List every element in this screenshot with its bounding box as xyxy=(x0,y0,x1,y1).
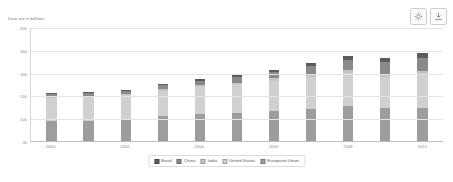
x-axis: 200020022004200620082010 xyxy=(30,144,443,152)
chart-widget: Data are in billions 50k40k30k20k10k0k 2… xyxy=(0,0,453,182)
bar-segment[interactable] xyxy=(83,121,93,141)
x-axis-tick-label: 2004 xyxy=(194,144,204,152)
bar-2008[interactable] xyxy=(343,56,353,141)
y-axis-tick-label: 0k xyxy=(23,140,27,145)
y-axis-tick-label: 40k xyxy=(20,48,27,53)
x-axis-tick-label: 2008 xyxy=(343,144,353,152)
legend-label: Brazil xyxy=(161,158,172,164)
plot-canvas xyxy=(30,28,443,142)
legend-label: European Union xyxy=(267,158,299,164)
x-axis-tick-label xyxy=(306,144,316,152)
gridline xyxy=(31,51,443,52)
settings-icon[interactable] xyxy=(410,8,427,25)
x-axis-tick-label xyxy=(380,144,390,152)
bar-segment[interactable] xyxy=(343,60,353,70)
legend-item-european-union[interactable]: European Union xyxy=(260,158,299,164)
x-axis-tick-label: 2006 xyxy=(268,144,278,152)
download-icon[interactable] xyxy=(430,8,447,25)
x-axis-tick-label xyxy=(83,144,93,152)
chart-legend: BrazilChinaIndiaUnited StatesEuropean Un… xyxy=(148,155,305,167)
legend-swatch xyxy=(200,159,205,164)
bar-segment[interactable] xyxy=(232,84,242,113)
bar-segment[interactable] xyxy=(380,108,390,141)
x-axis-tick-label xyxy=(157,144,167,152)
y-axis-tick-label: 30k xyxy=(20,71,27,76)
bar-segment[interactable] xyxy=(380,77,390,109)
legend-swatch xyxy=(177,159,182,164)
y-axis-tick-label: 50k xyxy=(20,26,27,31)
chart-toolbar xyxy=(410,8,447,25)
x-axis-tick-label: 2002 xyxy=(120,144,130,152)
legend-swatch xyxy=(260,159,265,164)
bar-segment[interactable] xyxy=(195,87,205,114)
gridline xyxy=(31,74,443,75)
bar-2009[interactable] xyxy=(380,58,390,141)
y-axis-tick-label: 10k xyxy=(20,117,27,122)
x-axis-tick-label xyxy=(231,144,241,152)
bar-segment[interactable] xyxy=(306,77,316,108)
bar-segment[interactable] xyxy=(417,108,427,141)
bar-2005[interactable] xyxy=(232,75,242,141)
bar-2007[interactable] xyxy=(306,63,316,141)
bar-segment[interactable] xyxy=(121,95,131,119)
bar-segment[interactable] xyxy=(269,111,279,141)
bar-2000[interactable] xyxy=(46,93,56,141)
bar-segment[interactable] xyxy=(83,97,93,121)
bar-segment[interactable] xyxy=(46,121,56,141)
bar-segment[interactable] xyxy=(232,113,242,141)
bar-segment[interactable] xyxy=(380,62,390,74)
bar-segment[interactable] xyxy=(195,114,205,141)
gridline xyxy=(31,96,443,97)
legend-swatch xyxy=(222,159,227,164)
legend-item-china[interactable]: China xyxy=(177,158,195,164)
bar-2001[interactable] xyxy=(83,92,93,141)
y-axis: 50k40k30k20k10k0k xyxy=(8,24,30,142)
bar-group xyxy=(31,28,443,141)
x-axis-tick-label: 2010 xyxy=(417,144,427,152)
chart-subtitle: Data are in billions xyxy=(8,16,44,22)
legend-item-brazil[interactable]: Brazil xyxy=(154,158,172,164)
bar-segment[interactable] xyxy=(417,58,427,72)
legend-label: United States xyxy=(229,158,255,164)
bar-segment[interactable] xyxy=(417,75,427,108)
legend-label: India xyxy=(207,158,217,164)
gridline xyxy=(31,28,443,29)
y-axis-tick-label: 20k xyxy=(20,94,27,99)
legend-item-united-states[interactable]: United States xyxy=(222,158,255,164)
bar-segment[interactable] xyxy=(121,120,131,141)
gridline xyxy=(31,119,443,120)
x-axis-tick-label: 2000 xyxy=(45,144,55,152)
legend-label: China xyxy=(184,158,195,164)
legend-swatch xyxy=(154,159,159,164)
bar-segment[interactable] xyxy=(158,91,168,117)
bar-2006[interactable] xyxy=(269,70,279,141)
bar-segment[interactable] xyxy=(343,106,353,141)
legend-item-india[interactable]: India xyxy=(200,158,217,164)
bar-2003[interactable] xyxy=(158,84,168,141)
bar-segment[interactable] xyxy=(343,73,353,106)
bar-segment[interactable] xyxy=(306,109,316,141)
bar-2004[interactable] xyxy=(195,79,205,141)
chart-plot-area: 50k40k30k20k10k0k 2000200220042006200820… xyxy=(8,24,445,146)
bar-segment[interactable] xyxy=(46,98,56,121)
